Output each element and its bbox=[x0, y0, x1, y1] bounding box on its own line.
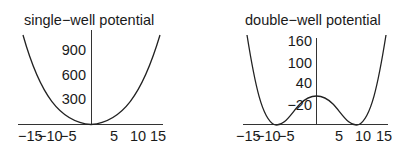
y-tick-label: 900 bbox=[46, 42, 86, 58]
x-tick-label: 5 bbox=[110, 128, 118, 144]
chart-title: single−well potential bbox=[24, 12, 154, 28]
y-tick-label: 160 bbox=[272, 33, 312, 49]
x-tick-label: −10 bbox=[38, 128, 63, 144]
single-well-chart: single−well potential 900 600 300 −15 −1… bbox=[0, 0, 200, 153]
x-tick-label: 5 bbox=[335, 128, 343, 144]
x-tick-label: 15 bbox=[150, 128, 166, 144]
x-tick-label: −10 bbox=[256, 128, 281, 144]
y-tick-label: 300 bbox=[46, 91, 86, 107]
y-tick-label: 100 bbox=[272, 55, 312, 71]
x-tick-label: −5 bbox=[60, 128, 77, 144]
x-tick-label: −5 bbox=[278, 128, 295, 144]
y-tick-label: 600 bbox=[46, 67, 86, 83]
double-well-chart: double−well potential 160 100 40 −20 −15… bbox=[200, 0, 403, 153]
x-tick-label: 10 bbox=[355, 128, 371, 144]
x-tick-label: 10 bbox=[130, 128, 146, 144]
y-tick-label: −20 bbox=[272, 97, 312, 113]
x-tick-label: 15 bbox=[376, 128, 392, 144]
y-tick-label: 40 bbox=[272, 75, 312, 91]
chart-title: double−well potential bbox=[245, 12, 381, 28]
